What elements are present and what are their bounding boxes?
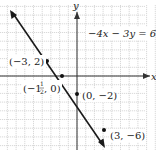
point-neg1half-0 <box>60 74 64 78</box>
point-label-neg1half-0: (−1 <box>23 83 42 94</box>
point-label-3-neg6: (3, −6) <box>110 130 145 141</box>
point-3-neg6 <box>102 128 106 132</box>
equation-label: −4x − 3y = 6 <box>88 28 156 39</box>
y-axis-label: y <box>72 0 79 11</box>
point-label-neg3-2: (−3, 2) <box>9 56 44 67</box>
grid-lines <box>0 5 155 150</box>
y-axis-arrow-icon <box>74 12 80 19</box>
point-0-neg2 <box>75 92 79 96</box>
x-axis-label: x <box>151 71 156 82</box>
point-label-0-neg2: (0, −2) <box>82 90 117 101</box>
graph-panel: x y −4x − 3y = 6 (−3, 2) (−1 1 2 , 0) (0… <box>0 0 156 150</box>
point-label-neg1half-0-tail: , 0) <box>44 83 61 94</box>
coordinate-plane: x y −4x − 3y = 6 (−3, 2) (−1 1 2 , 0) (0… <box>0 0 156 150</box>
